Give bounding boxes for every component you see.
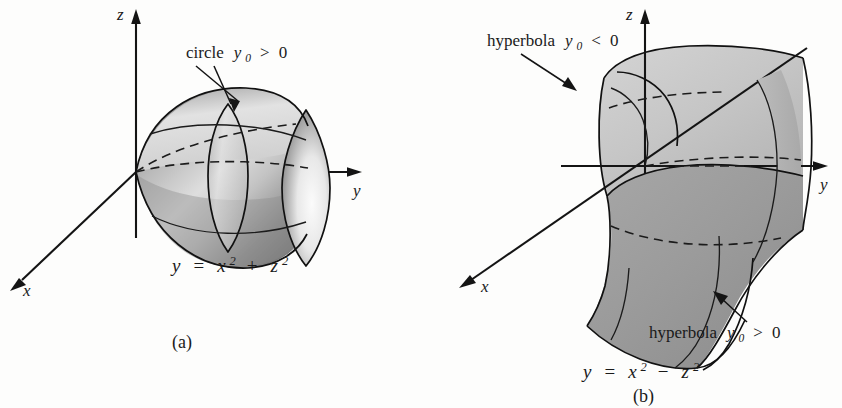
circle-annotation-relation: >	[260, 43, 270, 62]
equation-b: y = x 2 − z 2	[581, 357, 699, 382]
equation-b-operator: −	[658, 361, 669, 382]
equation-a-equals: =	[193, 255, 204, 276]
y-axis-label: y	[818, 175, 828, 194]
circle-annotation-variable: y	[232, 43, 242, 62]
circle-annotation-text: circle y 0 > 0	[186, 43, 287, 65]
panel-a-caption: (a)	[172, 332, 192, 353]
hyperbola-upper-arrowhead	[562, 77, 577, 91]
x-axis-label: x	[22, 281, 31, 300]
hyperbola-upper-subscript: 0	[577, 40, 583, 52]
panel-b-hyperbolic-paraboloid: z y x	[421, 0, 842, 408]
equation-a-lhs: y	[170, 255, 181, 276]
z-axis-arrowhead	[640, 9, 650, 24]
hyperbola-upper-relation: <	[591, 31, 601, 50]
z-axis-label: z	[625, 5, 633, 24]
equation-a-term1-base: x	[216, 255, 226, 276]
circle-annotation-prefix: circle	[186, 43, 224, 62]
x-axis-label: x	[480, 277, 489, 296]
hyperbola-upper-variable: y	[563, 31, 573, 50]
hyperbola-upper-annotation: hyperbola y 0 < 0	[487, 31, 618, 91]
saddle-right-silhouette	[803, 58, 812, 230]
equation-b-equals: =	[604, 361, 615, 382]
hyperbola-lower-annotation-text: hyperbola y 0 > 0	[649, 323, 780, 345]
hyperbola-lower-value: 0	[772, 323, 781, 342]
hyperbola-lower-variable: y	[725, 323, 735, 342]
equation-a-term2-base: z	[270, 255, 279, 276]
y-axis-label: y	[351, 181, 361, 200]
equation-a-term1-exponent: 2	[230, 254, 236, 268]
equation-b-term1-base: x	[627, 361, 637, 382]
equation-a-term2-exponent: 2	[282, 254, 288, 268]
hyperbola-upper-value: 0	[610, 31, 619, 50]
panel-a-circular-paraboloid: z y x	[0, 0, 421, 408]
z-axis-arrowhead	[131, 9, 141, 24]
hyperbola-upper-annotation-text: hyperbola y 0 < 0	[487, 31, 618, 53]
hyperbola-upper-prefix: hyperbola	[487, 31, 555, 50]
circular-paraboloid-surface	[136, 88, 330, 268]
z-axis-label: z	[116, 5, 124, 24]
hyperbola-lower-prefix: hyperbola	[649, 323, 717, 342]
panel-b-caption: (b)	[633, 386, 654, 407]
x-axis-line	[22, 172, 136, 280]
equation-b-term1-exponent: 2	[641, 360, 647, 374]
equation-b-term2-exponent: 2	[693, 360, 699, 374]
equation-a-operator: +	[247, 255, 258, 276]
circle-annotation-subscript: 0	[245, 52, 251, 64]
y-axis-arrowhead	[813, 161, 828, 171]
x-axis-arrowhead	[459, 275, 476, 288]
equation-b-term2-base: z	[681, 361, 690, 382]
equation-b-lhs: y	[581, 361, 592, 382]
equation-a: y = x 2 + z 2	[170, 251, 288, 276]
hyperbola-lower-relation: >	[753, 323, 763, 342]
hyperbola-upper-leader	[521, 54, 567, 84]
circle-annotation-value: 0	[279, 43, 288, 62]
hyperbola-lower-subscript: 0	[739, 332, 745, 344]
y-axis-arrowhead	[347, 167, 362, 177]
quadric-surfaces-figure: z y x	[0, 0, 842, 408]
